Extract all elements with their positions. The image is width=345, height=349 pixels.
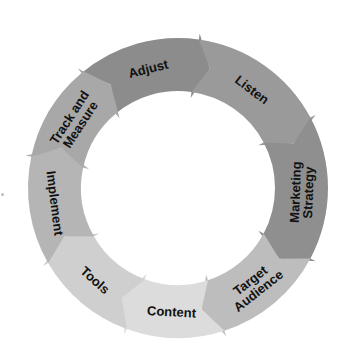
- step-label-line: Content: [147, 303, 197, 321]
- cycle-ring: AdjustListenMarketingStrategyTargetAudie…: [0, 0, 345, 349]
- stray-dot: [1, 193, 4, 196]
- step-label-content: Content: [147, 303, 197, 321]
- step-label-line: Strategy: [300, 166, 317, 219]
- step-label-marketing-strategy: MarketingStrategy: [287, 161, 317, 223]
- cycle-diagram: AdjustListenMarketingStrategyTargetAudie…: [0, 0, 345, 349]
